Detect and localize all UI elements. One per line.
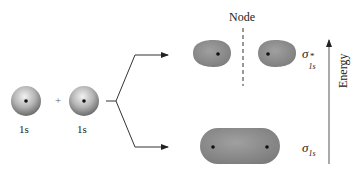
plus-sign: + <box>55 94 61 106</box>
branch-arrows <box>106 55 168 147</box>
sigma-symbol: σ <box>302 46 308 61</box>
bonding-orbital <box>200 128 280 164</box>
star-superscript: * <box>309 51 314 61</box>
antibonding-label: σ*1s <box>302 46 318 62</box>
atom-1s-right <box>69 86 99 116</box>
atom-label-left: 1s <box>19 123 29 135</box>
nucleus-dot <box>82 99 86 103</box>
nucleus-dot <box>24 99 28 103</box>
antibonding-orbital <box>193 40 296 67</box>
bonding-label: σ1s <box>302 140 316 158</box>
atom-1s-left <box>11 86 41 116</box>
node-label: Node <box>229 10 255 25</box>
atom-label-right: 1s <box>77 123 87 135</box>
subscript-1s: 1s <box>308 149 315 158</box>
energy-axis-label: Energy <box>336 54 351 88</box>
subscript-1s: 1s <box>308 62 315 71</box>
